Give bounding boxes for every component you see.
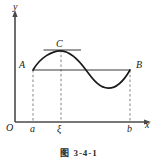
tick-label-xi: ξ (57, 124, 61, 134)
point-label-c: C (56, 39, 63, 49)
figure-caption: 图 3-4-1 (0, 146, 158, 158)
point-label-a: A (19, 60, 25, 70)
x-axis-label: x (145, 120, 149, 130)
origin-label: O (6, 123, 13, 133)
point-label-b: B (136, 60, 142, 70)
rolles-theorem-figure: y x O a ξ b A C B 图 3-4-1 (0, 0, 158, 158)
tick-label-a: a (30, 124, 35, 134)
y-axis-label: y (13, 2, 17, 12)
figure-drawing-canvas (0, 0, 158, 158)
tick-label-b: b (127, 124, 132, 134)
